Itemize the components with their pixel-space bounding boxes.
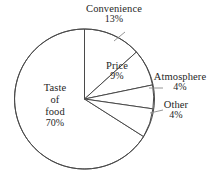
slice-label-other-value: 4%	[152, 110, 200, 121]
slice-label-convenience: Convenience 13%	[72, 3, 156, 25]
slice-label-taste-line1: Taste	[26, 82, 84, 94]
slice-label-atmosphere: Atmosphere 4%	[146, 71, 214, 93]
pie-chart-figure: Convenience 13% Price 9% Atmosphere 4% O…	[0, 0, 215, 184]
slice-label-price-value: 9%	[96, 71, 138, 82]
slice-label-price: Price 9%	[96, 60, 138, 82]
slice-label-taste-line2: of	[26, 94, 84, 106]
slice-label-atmosphere-value: 4%	[146, 82, 214, 93]
slice-label-taste-line3: food	[26, 106, 84, 118]
slice-label-taste-of-food: Taste of food 70%	[26, 82, 84, 128]
slice-label-other: Other 4%	[152, 99, 200, 121]
slice-label-taste-value: 70%	[26, 117, 84, 128]
slice-label-convenience-value: 13%	[72, 14, 156, 25]
